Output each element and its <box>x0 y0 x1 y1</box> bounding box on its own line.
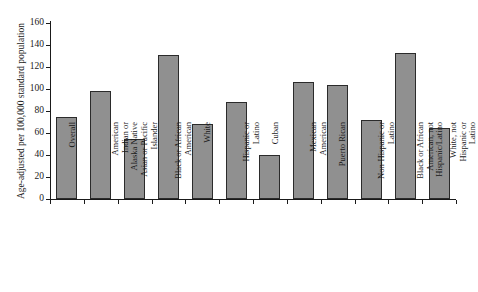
x-axis-label-line: Hispanic/Latino <box>435 122 445 206</box>
x-tick-mark <box>84 200 85 204</box>
x-axis-label: AmericanIndian orAlaska Native <box>111 122 140 206</box>
x-axis-label: White <box>203 122 213 206</box>
x-axis-label: Asian or PacificIslander <box>140 122 159 206</box>
bar <box>395 53 416 199</box>
x-axis-label-line: Latino <box>386 122 396 206</box>
y-tick-0: 0 <box>0 199 50 200</box>
x-axis-label-line: Hispanic or <box>242 122 252 206</box>
x-tick-mark <box>50 200 51 204</box>
y-tick-160: 160 <box>0 23 50 24</box>
x-axis-label: Cuban <box>271 122 281 206</box>
x-axis-label: Puerto Rican <box>338 122 348 206</box>
x-axis-label: White, notHispanic orLatino <box>449 122 478 206</box>
y-tick-label: 120 <box>30 60 44 73</box>
y-tick-label: 40 <box>35 148 45 161</box>
x-axis-label-line: Latino <box>468 122 478 206</box>
x-axis-label: Non-Hispanic orLatino <box>377 122 396 206</box>
y-tick-label: 100 <box>30 82 44 95</box>
y-tick-label: 0 <box>39 192 44 205</box>
x-axis-label: Black or AfricanAmerican <box>174 122 193 206</box>
y-tick-100: 100 <box>0 89 50 90</box>
x-axis-labels: OverallAmericanIndian orAlaska NativeAsi… <box>50 206 456 292</box>
y-tick-80: 80 <box>0 111 50 112</box>
x-tick-mark <box>287 200 288 204</box>
y-tick-60: 60 <box>0 133 50 134</box>
x-axis-label-line: Overall <box>68 122 78 206</box>
y-tick-label: 140 <box>30 38 44 51</box>
x-axis-label-line: White <box>203 122 213 206</box>
y-tick-140: 140 <box>0 45 50 46</box>
x-axis-label-line: Islander <box>150 122 160 206</box>
y-tick-label: 60 <box>35 126 45 139</box>
x-axis-label-line: Cuban <box>271 122 281 206</box>
x-axis-label-line: Black or African <box>174 122 184 206</box>
x-axis-label-line: Black or African <box>416 122 426 206</box>
x-axis-label: Overall <box>68 122 78 206</box>
y-tick-20: 20 <box>0 177 50 178</box>
x-axis-label-line: Non-Hispanic or <box>377 122 387 206</box>
x-axis-label-line: American <box>183 122 193 206</box>
x-tick-mark <box>355 200 356 204</box>
x-axis-label: Hispanic orLatino <box>242 122 261 206</box>
x-axis-label: MexicanAmerican <box>309 122 328 206</box>
x-axis-label-line: American <box>319 122 329 206</box>
y-tick-120: 120 <box>0 67 50 68</box>
x-axis-label: Black or AfricanAmerican, notHispanic/La… <box>416 122 445 206</box>
bar <box>90 91 111 199</box>
y-tick-label: 20 <box>35 170 45 183</box>
y-tick-label: 160 <box>30 16 44 29</box>
y-tick-label: 80 <box>35 104 45 117</box>
x-axis-label-line: Puerto Rican <box>338 122 348 206</box>
x-tick-mark <box>219 200 220 204</box>
x-axis-label-line: Latino <box>251 122 261 206</box>
y-tick-40: 40 <box>0 155 50 156</box>
